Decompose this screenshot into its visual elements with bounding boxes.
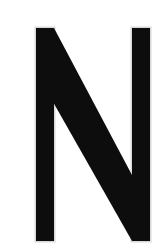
image-canvas [0,0,167,251]
right-vertical-stem [132,28,150,241]
letter-n-glyph [0,0,167,251]
left-vertical-stem [36,28,54,241]
